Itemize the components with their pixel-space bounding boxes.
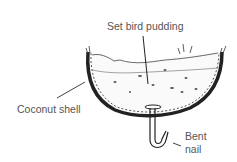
label-bent: Bent <box>185 130 207 142</box>
label-coconut-shell: Coconut shell <box>17 103 81 115</box>
label-set-bird-pudding: Set bird pudding <box>107 20 183 32</box>
shell-leader-line <box>57 82 85 98</box>
nail-head <box>145 105 161 109</box>
nail-leader-line <box>173 143 181 146</box>
coconut-fibers <box>86 44 226 54</box>
label-nail: nail <box>185 143 201 155</box>
bird-feeder-diagram: Set bird pudding Coconut shell Bent nail <box>0 0 237 162</box>
